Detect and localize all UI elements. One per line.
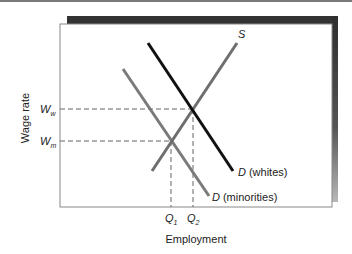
- supply-label: S: [238, 28, 246, 40]
- y-axis-label: Wage rate: [19, 93, 31, 143]
- wage-minorities-tick: Wm: [40, 135, 56, 149]
- wage-whites-tick: Ww: [40, 103, 56, 117]
- frame-shadow-top: [67, 16, 338, 24]
- q1-tick: Q1: [165, 212, 178, 226]
- labor-market-chart: S D(whites) D(minorities) Ww Wm Q1 Q2 Em…: [0, 0, 352, 254]
- demand-whites-label: D(whites): [238, 166, 287, 178]
- x-axis-label: Employment: [165, 233, 226, 245]
- q2-tick: Q2: [187, 212, 200, 226]
- frame-shadow-right: [332, 16, 338, 202]
